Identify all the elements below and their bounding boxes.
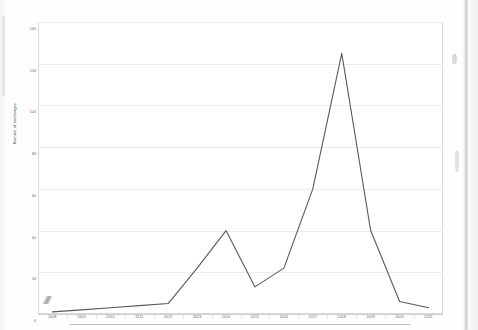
plot-area [38, 22, 443, 314]
x-tick-separator [212, 315, 213, 319]
x-tick-label: 2019 [366, 316, 374, 320]
scan-artifact-left [2, 16, 5, 96]
scan-artifact-right-lower [455, 150, 459, 172]
x-tick-separator [327, 315, 328, 319]
x-tick-label: 2010 [106, 316, 114, 320]
x-tick-separator [154, 315, 155, 319]
line-chart: Number of exchanges 020406080100120140 2… [18, 14, 452, 308]
x-tick-separator [241, 315, 242, 319]
x-tick-separator [125, 315, 126, 319]
scanned-page: Number of exchanges 020406080100120140 2… [0, 0, 478, 330]
x-tick-label: 2018 [338, 316, 346, 320]
x-tick-label: 2012 [164, 316, 172, 320]
y-tick-label: 140 [30, 28, 36, 32]
x-tick-label: 2017 [309, 316, 317, 320]
x-tick-separator [269, 315, 270, 319]
x-tick-separator [414, 315, 415, 319]
y-axis-tick-labels: 020406080100120140 [14, 22, 36, 314]
y-tick-label: 60 [32, 195, 36, 199]
y-tick-label: 100 [30, 112, 36, 116]
x-tick-label: 2014 [222, 316, 230, 320]
scan-artifact-right-upper [452, 54, 457, 64]
x-tick-label: 2020 [395, 316, 403, 320]
page-horizontal-rule [70, 324, 410, 325]
x-tick-label: 2015 [251, 316, 259, 320]
y-tick-label: 120 [30, 70, 36, 74]
x-tick-label: 2021 [424, 316, 432, 320]
y-tick-label: 20 [32, 278, 36, 282]
x-tick-label: 2016 [280, 316, 288, 320]
x-tick-label: 2009 [77, 316, 85, 320]
y-tick-label: 80 [32, 153, 36, 157]
x-tick-label: 2008 [48, 316, 56, 320]
x-tick-label: 2013 [193, 316, 201, 320]
x-tick-label: 2011 [135, 316, 143, 320]
x-tick-separator [385, 315, 386, 319]
x-tick-separator [298, 315, 299, 319]
y-tick-label: 0 [34, 320, 36, 324]
x-tick-separator [356, 315, 357, 319]
x-tick-separator [67, 315, 68, 319]
x-tick-separator [96, 315, 97, 319]
page-fold-shadow [463, 0, 468, 330]
y-tick-label: 40 [32, 237, 36, 241]
x-tick-separator [183, 315, 184, 319]
series-line [38, 22, 443, 314]
scan-smudge-artifact [30, 296, 64, 304]
